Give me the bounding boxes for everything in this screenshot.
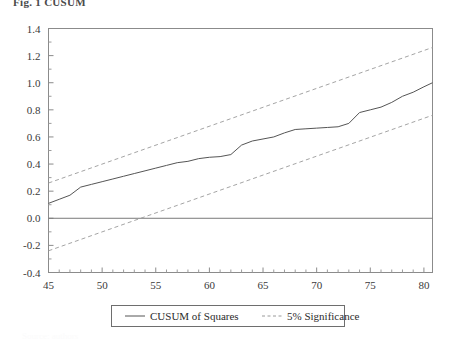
y-axis-tick-label: 0.0: [27, 212, 41, 224]
y-axis-tick-label: -0.4: [23, 267, 41, 279]
bottom-note: Source: authors: [22, 331, 78, 341]
y-axis-tick-label: 1.4: [27, 23, 41, 35]
x-axis-tick-label: 45: [43, 279, 55, 291]
cusum-of-squares-chart: -0.4-0.20.00.20.40.60.81.01.21.4 4550556…: [0, 0, 451, 342]
x-axis-tick-label: 60: [204, 279, 216, 291]
series-line: [49, 115, 433, 251]
y-axis-tick-label: 0.2: [27, 185, 41, 197]
y-axis-tick-label: 1.2: [27, 50, 41, 62]
y-axis-tick-label: 0.6: [27, 131, 41, 143]
series-line: [49, 83, 433, 204]
x-axis-tick-label: 65: [258, 279, 270, 291]
x-axis: 4550556065707580: [43, 268, 430, 291]
x-axis-tick-label: 50: [97, 279, 109, 291]
plot-svg: -0.4-0.20.00.20.40.60.81.01.21.4 4550556…: [0, 0, 451, 342]
x-axis-tick-label: 80: [418, 279, 430, 291]
x-axis-tick-label: 75: [365, 279, 377, 291]
x-axis-tick-label: 70: [311, 279, 323, 291]
series-lines: [49, 47, 433, 250]
y-axis-tick-label: -0.2: [23, 239, 40, 251]
y-axis-tick-label: 1.0: [27, 77, 41, 89]
x-axis-tick-label: 55: [150, 279, 162, 291]
y-axis-tick-label: 0.8: [27, 104, 41, 116]
series-line: [49, 47, 433, 183]
plot-frame: [49, 29, 433, 273]
y-axis-tick-label: 0.4: [27, 158, 41, 170]
